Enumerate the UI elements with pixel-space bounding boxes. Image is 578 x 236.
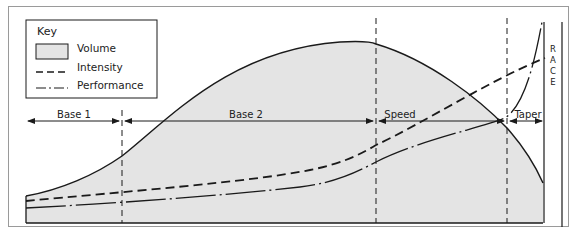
legend-label-performance: Performance [77,79,144,91]
phase-label-base1: Base 1 [57,109,91,120]
volume-swatch [36,44,68,59]
training-periodization-diagram: Base 1 Base 2 Speed Taper R A C E Key Vo… [0,0,578,236]
phase-label-taper: Taper [513,109,542,120]
race-letter-e: E [550,77,555,87]
phase-label-base2: Base 2 [229,109,263,120]
race-letter-c: C [550,66,556,76]
legend-label-intensity: Intensity [77,61,123,73]
legend-title: Key [37,25,57,38]
phase-label-speed: Speed [384,109,415,120]
race-letter-a: A [550,55,556,65]
legend-label-volume: Volume [77,42,116,54]
legend: Key Volume Intensity Performance [26,20,157,98]
race-letter-r: R [550,44,556,54]
